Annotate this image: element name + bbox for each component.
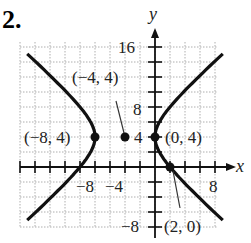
y-tick-neg8: −8 [121,217,139,236]
leader-line-center [116,101,124,133]
y-axis-label: y [147,4,157,24]
point-vertex-right [151,133,160,142]
x-axis-label: x [235,156,244,176]
y-tick-4: 4 [134,128,143,147]
label-point-2-0: (2, 0) [164,217,201,236]
x-tick-8: 8 [209,177,218,196]
x-tick-neg4: −4 [105,177,124,196]
problem-number: 2. [2,5,22,34]
label-right-vertex: (0, 4) [165,128,202,147]
label-center-point: (−4, 4) [72,68,118,87]
y-tick-8: 8 [133,100,142,119]
point-2-0 [166,163,175,172]
point-vertex-left [91,133,100,142]
label-left-vertex: (−8, 4) [24,128,70,147]
x-tick-neg8: −8 [76,177,94,196]
y-tick-16: 16 [118,38,135,57]
hyperbola-graph: 2. 16 8 4 −8 −8 −4 8 x y (−4, 4) (−8, 4)… [0,0,251,243]
point-center [121,133,130,142]
